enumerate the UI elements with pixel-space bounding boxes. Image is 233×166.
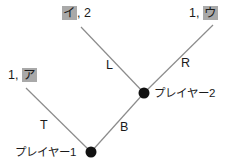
edge-label-B: B [120, 120, 128, 134]
game-tree-diagram: プレイヤー1 プレイヤー2 T B L R 1, ア イ, 2 1, ウ [0, 0, 233, 166]
edge-line-T [26, 88, 91, 152]
payoff-leaf-a-first: 1, [8, 68, 18, 82]
node-player2 [139, 88, 150, 99]
payoff-leaf-a: 1, ア [8, 68, 37, 82]
player2-label: プレイヤー2 [154, 86, 215, 100]
payoff-leaf-a-second: ア [22, 68, 37, 82]
payoff-leaf-i: イ, 2 [62, 6, 91, 20]
payoff-leaf-u: 1, ウ [189, 6, 218, 20]
payoff-leaf-i-first: イ [62, 6, 77, 20]
payoff-leaf-u-second: ウ [203, 6, 218, 20]
edge-line-R [144, 25, 213, 93]
edge-line-B [91, 93, 144, 152]
edge-label-T: T [40, 118, 48, 132]
player1-label: プレイヤー1 [15, 145, 76, 159]
tree-edges [0, 0, 233, 166]
edge-label-L: L [106, 58, 113, 72]
payoff-leaf-i-second: , 2 [77, 6, 91, 20]
payoff-leaf-u-first: 1, [189, 6, 199, 20]
edge-label-R: R [181, 56, 190, 70]
node-player1 [86, 147, 97, 158]
